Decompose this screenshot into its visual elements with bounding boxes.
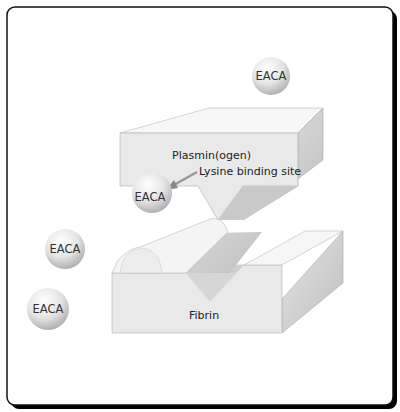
svg-text:EACA: EACA — [256, 69, 287, 83]
svg-text:EACA: EACA — [50, 242, 81, 256]
binding-site-label: Lysine binding site — [199, 165, 301, 178]
diagram-canvas: Fibrin Plasmin(ogen) Lysine binding site… — [0, 0, 400, 412]
fibrin-label: Fibrin — [189, 309, 219, 322]
eaca-molecule-left-lower: EACA — [27, 288, 69, 330]
eaca-molecule-left-upper: EACA — [45, 229, 85, 269]
plasminogen-label: Plasmin(ogen) — [172, 149, 251, 162]
eaca-molecule-top: EACA — [252, 57, 290, 95]
frame — [7, 7, 397, 409]
svg-text:EACA: EACA — [135, 190, 166, 204]
eaca-molecule-bound: EACA — [132, 173, 172, 213]
svg-text:EACA: EACA — [33, 302, 64, 316]
